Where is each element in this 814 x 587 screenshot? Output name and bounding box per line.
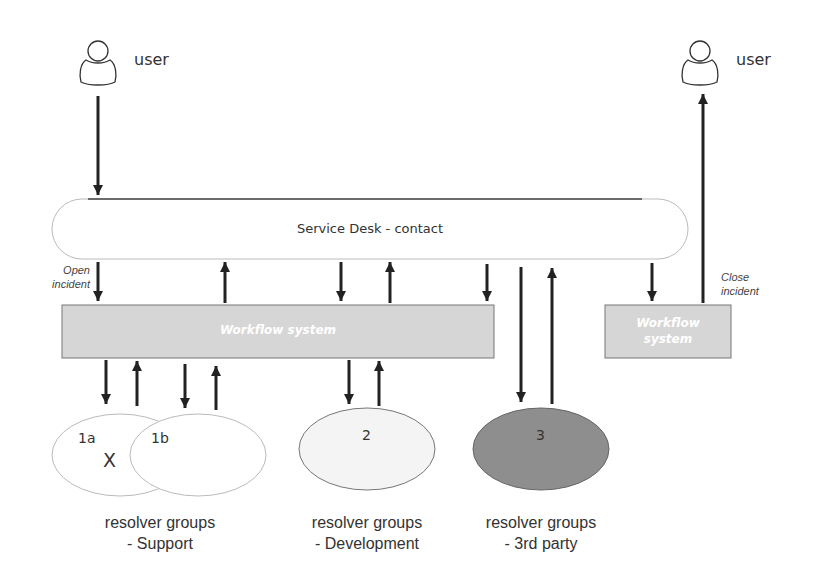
workflow-system-label-small: Workflow system	[605, 315, 731, 347]
user-icon-left	[80, 41, 116, 85]
caption-development-line2: - Development	[287, 533, 447, 554]
group-2-label: 2	[362, 427, 371, 443]
group-1b-label: 1b	[151, 430, 169, 446]
workflow-small-line1: Workflow	[605, 315, 731, 331]
group-1a-label: 1a	[78, 430, 96, 446]
close-incident-note: Close incident	[721, 270, 791, 298]
group-1a-x-mark: X	[103, 449, 116, 471]
workflow-small-line2: system	[605, 331, 731, 347]
caption-support-line2: - Support	[80, 533, 240, 554]
group-3-label: 3	[536, 427, 545, 443]
caption-3rd-party-line1: resolver groups	[461, 512, 621, 533]
close-incident-line2: incident	[721, 284, 791, 298]
open-incident-line1: Open	[28, 263, 90, 277]
caption-development-line1: resolver groups	[287, 512, 447, 533]
user-label-left: user	[134, 50, 169, 69]
resolver-group-3	[473, 408, 609, 490]
user-icon-right	[682, 41, 718, 85]
close-incident-line1: Close	[721, 270, 791, 284]
workflow-system-label: Workflow system	[62, 323, 494, 337]
service-desk-label: Service Desk - contact	[52, 221, 688, 236]
diagram-canvas	[0, 0, 814, 587]
open-incident-note: Open incident	[28, 263, 90, 291]
resolver-group-1b	[130, 414, 266, 496]
caption-development: resolver groups - Development	[287, 512, 447, 554]
resolver-group-2	[299, 408, 435, 490]
user-label-right: user	[736, 50, 771, 69]
caption-3rd-party-line2: - 3rd party	[461, 533, 621, 554]
caption-3rd-party: resolver groups - 3rd party	[461, 512, 621, 554]
caption-support-line1: resolver groups	[80, 512, 240, 533]
caption-support: resolver groups - Support	[80, 512, 240, 554]
open-incident-line2: incident	[28, 277, 90, 291]
